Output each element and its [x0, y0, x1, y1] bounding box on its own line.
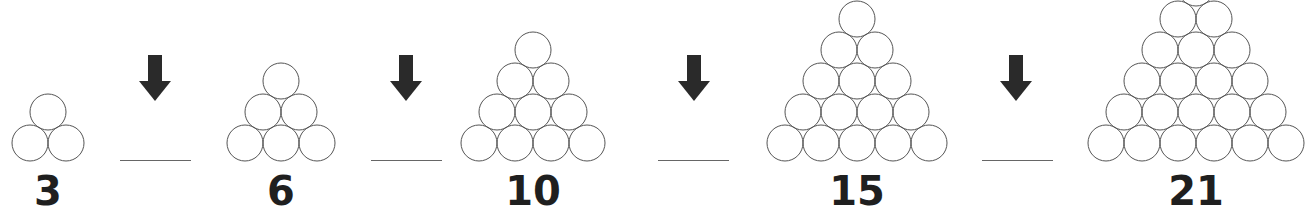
count-label: 6 [267, 168, 295, 214]
down-arrow-icon [678, 55, 710, 101]
circle-triangle [461, 32, 605, 161]
down-arrow-icon [390, 55, 422, 101]
circle-triangle [767, 1, 947, 161]
count-label: 10 [505, 168, 561, 214]
count-label: 3 [34, 168, 62, 214]
answer-blank[interactable] [658, 160, 729, 161]
circle-triangle [227, 63, 335, 161]
down-arrow-icon [1000, 55, 1032, 101]
answer-blank[interactable] [371, 160, 442, 161]
count-label: 21 [1168, 168, 1224, 214]
count-label: 15 [829, 168, 885, 214]
answer-blank[interactable] [120, 160, 191, 161]
down-arrow-icon [139, 55, 171, 101]
answer-blank[interactable] [982, 160, 1053, 161]
circle-triangles [0, 0, 1308, 214]
circle-triangle [12, 94, 84, 161]
circle-triangle [1088, 0, 1304, 161]
